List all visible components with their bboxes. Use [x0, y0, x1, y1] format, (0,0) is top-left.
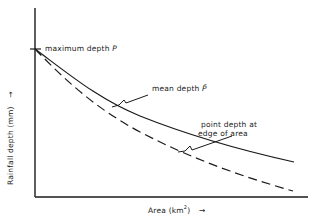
point-depth-label-line1: point depth at	[201, 121, 257, 129]
mean-depth-label: mean depth P̄	[152, 85, 207, 93]
point-depth-label-line2: edge of area	[198, 130, 248, 138]
mean-depth-leader	[112, 95, 148, 107]
depth-area-diagram	[0, 0, 326, 222]
y-axis-arrow-icon: →	[6, 91, 15, 97]
max-depth-symbol: P	[112, 44, 117, 53]
mean-depth-symbol: P̄	[202, 84, 207, 93]
mean-depth-curve	[35, 49, 294, 162]
max-depth-label: maximum depth P	[45, 45, 117, 53]
y-axis-label: Rainfall depth (mm) →	[6, 91, 15, 185]
x-axis-arrow-icon: →	[199, 206, 205, 215]
x-axis-label: Area (km2) →	[148, 205, 205, 214]
